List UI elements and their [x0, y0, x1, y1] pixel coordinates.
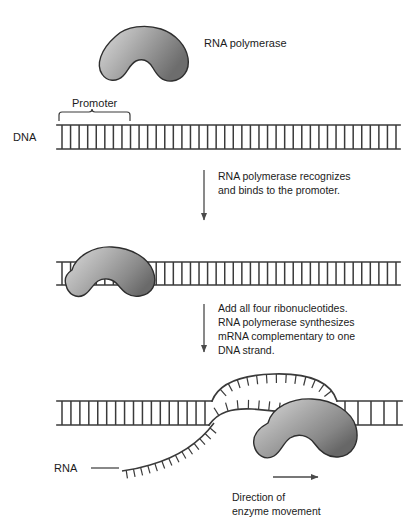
stage-1-group: RNA polymerase Promoter DNA: [13, 26, 400, 149]
strand-tick: [194, 443, 199, 449]
transcription-bubble-top-strand: [212, 374, 337, 401]
rna-transcript: RNA: [54, 423, 216, 478]
strand-tick: [162, 461, 165, 468]
strand-tick: [257, 375, 258, 384]
rna-polymerase-bound-promoter: [65, 247, 155, 296]
caption-bind-line-1: RNA polymerase recognizes: [218, 170, 350, 182]
caption-synthesize-line-1: Add all four ribonucleotides.: [218, 302, 348, 314]
rna-polymerase-free: [99, 26, 188, 81]
bubble-top-ticks: [220, 374, 331, 397]
strand-tick: [175, 455, 179, 462]
strand-tick: [226, 403, 229, 412]
transcription-diagram: RNA polymerase Promoter DNA RNA polymera…: [0, 0, 412, 531]
strand-tick: [214, 408, 219, 416]
strand-tick: [319, 384, 324, 391]
direction-label-line-2: enzyme movement: [232, 505, 321, 517]
strand-tick: [200, 439, 205, 445]
caption-synthesize-group: Add all four ribonucleotides. RNA polyme…: [204, 302, 355, 356]
strand-tick: [269, 401, 270, 410]
strand-tick: [259, 400, 260, 409]
strand-tick: [169, 458, 172, 465]
dna-rungs: [62, 125, 396, 149]
stage-1-dna-duplex: [57, 125, 400, 149]
stage-2-group: [57, 247, 400, 296]
stage-3-dna-left: [57, 401, 212, 425]
caption-bind-line-2: and binds to the promoter.: [218, 184, 340, 196]
dna-rungs: [62, 401, 205, 425]
stage-3-group: RNA Direction of enzyme movement: [54, 374, 402, 517]
caption-synthesize-line-4: DNA strand.: [218, 344, 275, 356]
strand-tick: [312, 380, 315, 388]
strand-tick: [295, 375, 296, 384]
direction-annotation: Direction of enzyme movement: [232, 477, 321, 517]
promoter-label: Promoter: [72, 97, 118, 109]
strand-tick: [237, 400, 238, 409]
caption-bind-group: RNA polymerase recognizes and binds to t…: [204, 170, 350, 220]
strand-tick: [220, 389, 226, 396]
strand-tick: [237, 379, 240, 388]
direction-label-line-1: Direction of: [232, 491, 285, 503]
strand-tick: [126, 470, 127, 478]
strand-tick: [133, 469, 135, 477]
promoter-bracket: [59, 109, 130, 121]
strand-tick: [266, 374, 267, 383]
strand-tick: [148, 466, 150, 474]
caption-synthesize-line-2: RNA polymerase synthesizes: [218, 316, 355, 328]
strand-tick: [188, 448, 192, 455]
strand-tick: [155, 464, 157, 472]
strand-tick: [182, 452, 186, 459]
strand-tick: [324, 391, 331, 397]
strand-tick: [141, 468, 143, 476]
strand-tick: [228, 383, 232, 391]
strand-tick: [304, 377, 306, 386]
strand-tick: [247, 377, 249, 386]
caption-synthesize-line-3: mRNA complementary to one: [218, 330, 355, 342]
dna-label: DNA: [13, 131, 37, 143]
rna-label: RNA: [54, 462, 78, 474]
strand-tick: [210, 428, 216, 433]
strand-tick: [205, 433, 211, 439]
rna-polymerase-label: RNA polymerase: [204, 37, 287, 49]
